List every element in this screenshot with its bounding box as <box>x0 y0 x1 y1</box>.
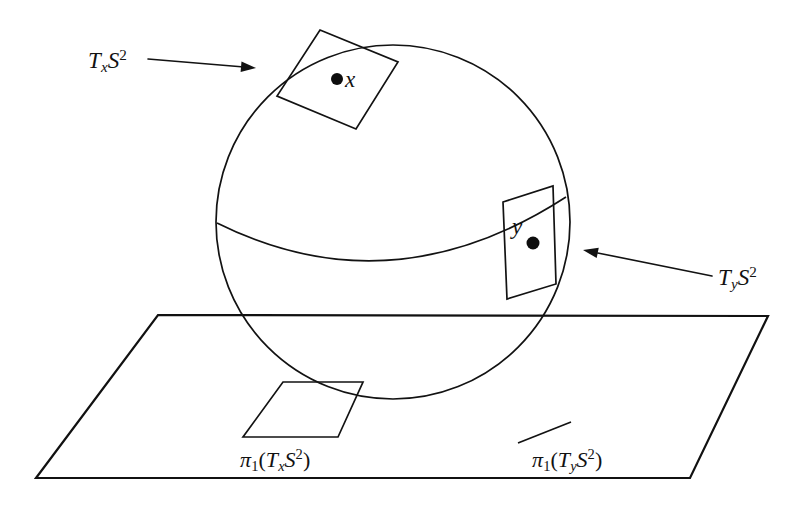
label-projection-y-open-paren: ( <box>550 447 557 472</box>
base-plane <box>36 315 768 478</box>
label-tangent-y-operand: S <box>738 265 750 290</box>
label-projection-y: π1(TyS2) <box>532 447 602 473</box>
label-tangent-x-operand: S <box>108 48 120 73</box>
label-projection-x-close-paren: ) <box>303 447 310 472</box>
label-projection-y-base: T <box>558 447 570 472</box>
label-projection-y-close-paren: ) <box>595 447 602 472</box>
projection-of-tangent-plane-y-segment <box>518 422 571 443</box>
label-tangent-x-base: T <box>88 48 101 73</box>
label-projection-y-sup: 2 <box>588 446 595 462</box>
label-tangent-x-sub: x <box>101 58 108 75</box>
label-point-y: y <box>512 215 522 238</box>
point-y-dot <box>527 237 540 250</box>
label-projection-x-sup: 2 <box>296 446 303 462</box>
point-x-dot <box>331 73 343 85</box>
label-projection-y-operand: S <box>577 447 588 472</box>
differential-geometry-figure: TxS2 TyS2 x y π1(TxS2) π1(TyS2) <box>0 0 806 505</box>
label-projection-y-pi: π <box>532 447 543 472</box>
label-projection-x: π1(TxS2) <box>240 447 310 473</box>
leader-arrow-to-tangent-y <box>583 248 712 276</box>
figure-canvas <box>0 0 806 505</box>
label-tangent-x-sup: 2 <box>119 46 127 63</box>
label-tangent-y-sup: 2 <box>749 263 757 280</box>
label-projection-x-operand: S <box>285 447 296 472</box>
label-tangent-y-sub: y <box>731 275 738 292</box>
label-tangent-plane-y: TyS2 <box>718 264 757 291</box>
projection-of-tangent-plane-x <box>243 382 363 437</box>
label-point-x: x <box>345 68 355 91</box>
label-projection-x-base: T <box>266 447 278 472</box>
label-tangent-plane-x: TxS2 <box>88 47 127 74</box>
label-tangent-y-base: T <box>718 265 731 290</box>
label-projection-x-open-paren: ( <box>258 447 265 472</box>
leader-arrow-to-tangent-x <box>148 59 256 72</box>
label-projection-x-pi: π <box>240 447 251 472</box>
